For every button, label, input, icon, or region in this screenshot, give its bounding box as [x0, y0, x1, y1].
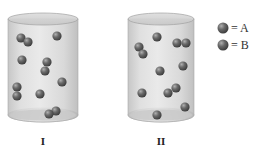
- container-label: II: [157, 135, 166, 147]
- container-label: I: [41, 135, 45, 147]
- particle-a: [138, 49, 147, 58]
- particle-b: [180, 102, 189, 111]
- particle-a: [171, 83, 180, 92]
- particle-b-icon: [218, 40, 229, 51]
- particle-b: [181, 38, 190, 47]
- particle-b: [40, 66, 49, 75]
- particle-a: [172, 38, 181, 47]
- container-1: I: [8, 13, 78, 147]
- particle-b: [12, 91, 21, 100]
- gas-containers-diagram: III = A= B: [0, 0, 257, 158]
- particle-a: [35, 89, 44, 98]
- cylinder-floor: [10, 110, 76, 121]
- particle-a: [44, 109, 53, 118]
- cylinder-top: [128, 13, 194, 25]
- particle-b: [178, 61, 187, 70]
- container-2: II: [128, 13, 194, 147]
- legend-label: = A: [231, 21, 249, 35]
- particle-b: [163, 88, 172, 97]
- particle-b: [17, 55, 26, 64]
- legend-item-a: = A: [218, 21, 250, 35]
- particle-a: [12, 82, 21, 91]
- particle-a: [137, 88, 146, 97]
- particle-a: [152, 110, 161, 119]
- cylinder-top: [8, 13, 78, 25]
- particle-a-icon: [218, 23, 229, 34]
- legend-item-b: = B: [218, 38, 249, 52]
- legend: = A= B: [218, 21, 250, 52]
- legend-label: = B: [231, 38, 249, 52]
- particle-a: [52, 31, 61, 40]
- particle-a: [155, 66, 164, 75]
- particle-b: [23, 37, 32, 46]
- particle-a: [57, 77, 66, 86]
- particle-a: [42, 57, 51, 66]
- particle-a: [152, 32, 161, 41]
